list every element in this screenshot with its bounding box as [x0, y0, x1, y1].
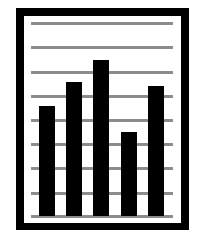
chart-bar [121, 132, 137, 216]
grid-line [31, 22, 173, 25]
chart-bar [39, 106, 55, 216]
grid-line [31, 46, 173, 49]
chart-bar [66, 82, 82, 216]
chart-bar [148, 86, 164, 216]
chart-bar [93, 60, 109, 216]
